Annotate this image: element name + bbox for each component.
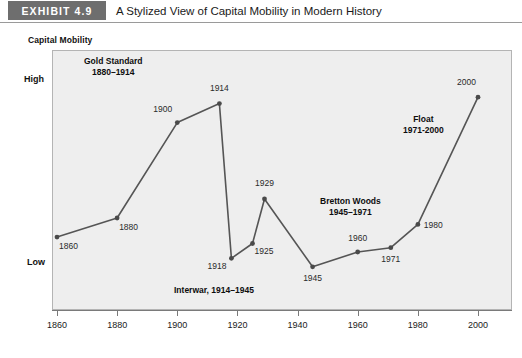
- x-tick-label-1860: 1860: [47, 320, 67, 330]
- x-tick-1940: [298, 311, 299, 316]
- x-tick-label-1900: 1900: [167, 320, 187, 330]
- x-tick-label-1920: 1920: [227, 320, 247, 330]
- x-tick-1960: [358, 311, 359, 316]
- data-point-2000: [476, 95, 481, 100]
- capital-mobility-line-chart: [53, 51, 511, 309]
- x-tick-1920: [237, 311, 238, 316]
- exhibit-header: EXHIBIT 4.9 A Stylized View of Capital M…: [0, 0, 522, 22]
- point-label-1914: 1914: [210, 83, 229, 93]
- x-tick-2000: [478, 311, 479, 316]
- data-point-1918: [229, 256, 234, 261]
- annotation-float-line2: 1971-2000: [403, 125, 444, 136]
- annotation-float-line1: Float: [403, 114, 444, 125]
- data-point-1914: [217, 101, 222, 106]
- point-label-1971: 1971: [381, 254, 400, 264]
- annotation-interwar-line1: Interwar, 1914–1945: [174, 285, 254, 296]
- data-point-1925: [250, 241, 255, 246]
- x-tick-label-1880: 1880: [107, 320, 127, 330]
- point-label-2000: 2000: [457, 77, 476, 87]
- chart-plot-area: [52, 50, 512, 310]
- x-tick-label-1980: 1980: [408, 320, 428, 330]
- point-label-1960: 1960: [348, 233, 367, 243]
- point-label-1900: 1900: [153, 104, 172, 114]
- annotation-gold-standard-line1: Gold Standard: [84, 56, 143, 67]
- y-axis-label-high: High: [24, 74, 44, 84]
- point-label-1980: 1980: [424, 220, 443, 230]
- point-label-1929: 1929: [255, 178, 274, 188]
- annotation-gold-standard-line2: 1880–1914: [84, 67, 143, 78]
- x-tick-1860: [57, 311, 58, 316]
- y-axis-label-low: Low: [27, 257, 45, 267]
- point-label-1860: 1860: [59, 241, 78, 251]
- point-label-1918: 1918: [207, 261, 226, 271]
- x-tick-1880: [117, 311, 118, 316]
- data-point-1900: [175, 120, 180, 125]
- annotation-float: Float 1971-2000: [403, 114, 444, 136]
- exhibit-title: A Stylized View of Capital Mobility in M…: [116, 1, 382, 20]
- x-tick-label-1940: 1940: [288, 320, 308, 330]
- y-axis-title: Capital Mobility: [28, 35, 92, 45]
- data-point-1980: [416, 222, 421, 227]
- source-note: [8, 351, 514, 358]
- exhibit-number-badge: EXHIBIT 4.9: [8, 1, 106, 20]
- data-point-1945: [310, 264, 315, 269]
- x-axis-line: [52, 310, 512, 311]
- data-point-1929: [262, 197, 267, 202]
- point-label-1945: 1945: [303, 273, 322, 283]
- header-divider: [0, 22, 522, 23]
- data-point-1960: [355, 250, 360, 255]
- data-point-1880: [115, 216, 120, 221]
- annotation-bretton-woods-line1: Bretton Woods: [320, 196, 381, 207]
- x-tick-1980: [418, 311, 419, 316]
- annotation-gold-standard: Gold Standard 1880–1914: [84, 56, 143, 78]
- x-tick-1900: [177, 311, 178, 316]
- data-point-1971: [388, 245, 393, 250]
- annotation-bretton-woods-line2: 1945–1971: [320, 207, 381, 218]
- data-point-1860: [55, 235, 60, 240]
- x-tick-label-2000: 2000: [468, 320, 488, 330]
- point-label-1925: 1925: [254, 246, 273, 256]
- point-label-1880: 1880: [119, 222, 138, 232]
- annotation-bretton-woods: Bretton Woods 1945–1971: [320, 196, 381, 218]
- annotation-interwar: Interwar, 1914–1945: [174, 285, 254, 296]
- x-tick-label-1960: 1960: [348, 320, 368, 330]
